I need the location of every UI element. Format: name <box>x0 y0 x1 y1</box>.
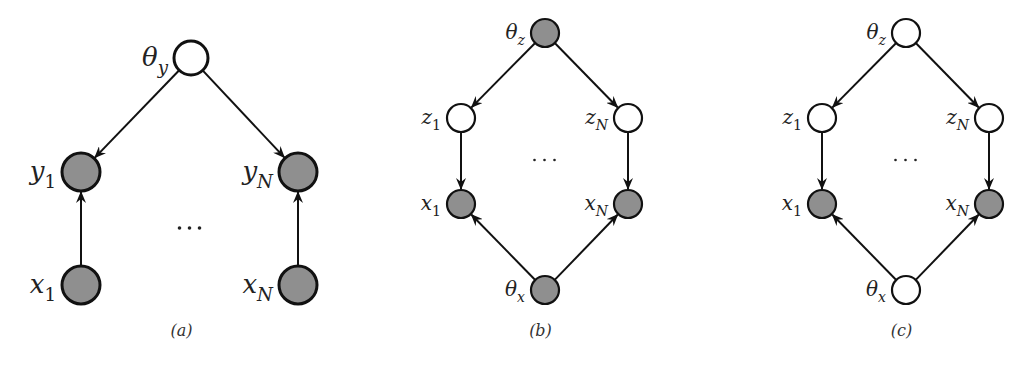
edge-theta_x-to-x_1 <box>471 215 535 280</box>
observed-node-circle <box>531 276 559 304</box>
edge-theta_x-to-x_N <box>555 215 618 280</box>
node-label: x1 <box>782 191 802 219</box>
observed-node-circle <box>62 266 100 304</box>
observed-node-circle <box>975 190 1003 218</box>
node-label: zN <box>584 105 609 133</box>
node-label: x1 <box>421 191 441 219</box>
latent-node-circle <box>614 104 642 132</box>
observed-node-circle <box>531 19 559 47</box>
node-label: θx <box>505 277 525 305</box>
panel-a: θyy1yNx1xN(a) <box>29 41 317 340</box>
node-x_N: xN <box>242 266 317 305</box>
graphical-models-figure: θyy1yNx1xN(a)θzz1zNx1xNθx(b)θzz1zNx1xNθx… <box>0 0 1027 366</box>
observed-node-circle <box>279 153 317 191</box>
latent-node-circle <box>892 19 920 47</box>
node-label: xN <box>584 191 608 219</box>
observed-node-circle <box>62 153 100 191</box>
node-label: z1 <box>782 105 802 133</box>
edge-theta_z-to-z_1 <box>472 43 536 107</box>
node-x_N: xN <box>584 190 642 219</box>
node-theta_y: θy <box>142 41 208 78</box>
ellipsis <box>533 159 556 162</box>
node-label: xN <box>945 191 969 219</box>
panel-b: θzz1zNx1xNθx(b) <box>421 19 642 340</box>
node-z_N: zN <box>945 104 1003 133</box>
node-label: θz <box>506 20 526 48</box>
ellipsis <box>894 159 917 162</box>
node-label: θy <box>142 42 169 78</box>
node-x_1: x1 <box>30 266 100 305</box>
node-x_1: x1 <box>421 190 475 219</box>
node-z_N: zN <box>584 104 642 133</box>
latent-node-circle <box>174 41 208 75</box>
panel-caption: (c) <box>891 321 912 340</box>
ellipsis <box>178 226 202 230</box>
node-theta_z: θz <box>867 19 920 48</box>
node-theta_z: θz <box>506 19 559 48</box>
latent-node-circle <box>447 104 475 132</box>
edge-theta_z-to-z_1 <box>833 43 897 107</box>
node-y_N: yN <box>241 153 317 192</box>
latent-node-circle <box>892 276 920 304</box>
panel-caption: (b) <box>529 321 552 340</box>
observed-node-circle <box>808 190 836 218</box>
observed-node-circle <box>279 266 317 304</box>
latent-node-circle <box>808 104 836 132</box>
edge-theta_x-to-x_1 <box>832 215 896 280</box>
observed-node-circle <box>614 190 642 218</box>
node-label: θz <box>867 20 887 48</box>
node-z_1: z1 <box>782 104 836 133</box>
panel-caption: (a) <box>170 321 192 340</box>
node-label: zN <box>945 105 970 133</box>
node-label: yN <box>241 156 274 192</box>
panel-c: θzz1zNx1xNθx(c) <box>782 19 1003 340</box>
node-y_1: y1 <box>29 153 100 192</box>
node-x_N: xN <box>945 190 1003 219</box>
node-label: θx <box>866 277 886 305</box>
latent-node-circle <box>975 104 1003 132</box>
node-theta_x: θx <box>866 276 920 305</box>
observed-node-circle <box>447 190 475 218</box>
edge-theta_y-to-y_N <box>203 70 285 157</box>
node-x_1: x1 <box>782 190 836 219</box>
edge-theta_x-to-x_N <box>916 215 979 280</box>
edge-theta_z-to-z_N <box>555 43 618 107</box>
node-z_1: z1 <box>421 104 475 133</box>
node-label: x1 <box>30 269 56 305</box>
edge-theta_y-to-y_1 <box>95 70 179 157</box>
node-label: y1 <box>29 156 56 192</box>
edge-theta_z-to-z_N <box>916 43 979 107</box>
node-theta_x: θx <box>505 276 559 305</box>
node-label: z1 <box>421 105 441 133</box>
node-label: xN <box>242 269 274 305</box>
